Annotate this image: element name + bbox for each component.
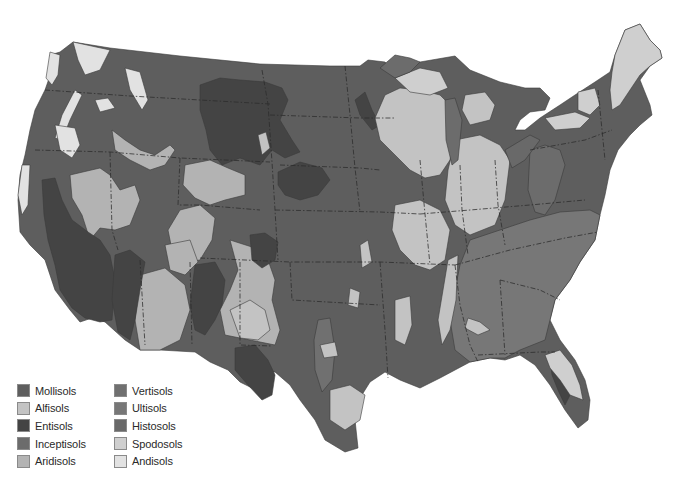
mollisols-swatch <box>17 384 30 397</box>
andisols-swatch <box>114 455 127 468</box>
vertisols-swatch <box>114 384 127 397</box>
legend: Mollisols Alfisols Entisols Inceptisols … <box>17 382 204 470</box>
legend-label: Histosols <box>132 420 176 432</box>
legend-item-entisols: Entisols <box>17 417 109 435</box>
legend-item-ultisols: Ultisols <box>114 400 204 418</box>
legend-item-alfisols: Alfisols <box>17 400 109 418</box>
alfisols-oklahoma-1 <box>348 288 360 308</box>
histosols-swatch <box>114 419 127 432</box>
legend-item-inceptisols: Inceptisols <box>17 435 109 453</box>
spodosols-swatch <box>114 437 127 450</box>
alfisols-texas-coast <box>330 385 365 430</box>
legend-label: Mollisols <box>35 385 76 397</box>
legend-label: Entisols <box>35 420 73 432</box>
entisols-swatch <box>17 419 30 432</box>
legend-label: Spodosols <box>132 438 182 450</box>
legend-label: Inceptisols <box>35 438 86 450</box>
legend-item-vertisols: Vertisols <box>114 382 204 400</box>
legend-label: Alfisols <box>35 402 69 414</box>
legend-label: Aridisols <box>35 455 76 467</box>
aridisols-swatch <box>17 455 30 468</box>
legend-item-histosols: Histosols <box>114 417 204 435</box>
inceptisols-swatch <box>17 437 30 450</box>
legend-item-spodosols: Spodosols <box>114 435 204 453</box>
legend-label: Ultisols <box>132 402 167 414</box>
ultisols-swatch <box>114 402 127 415</box>
legend-item-mollisols: Mollisols <box>17 382 109 400</box>
legend-label: Andisols <box>132 455 173 467</box>
legend-label: Vertisols <box>132 385 173 397</box>
legend-item-andisols: Andisols <box>114 452 204 470</box>
legend-item-aridisols: Aridisols <box>17 452 109 470</box>
alfisols-swatch <box>17 402 30 415</box>
